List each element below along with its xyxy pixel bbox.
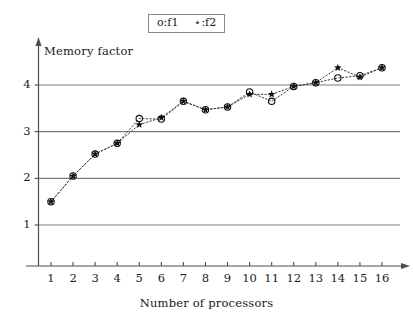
x-tick-label: 8: [195, 273, 215, 285]
x-tick-label: 4: [107, 273, 127, 285]
x-tick-label: 6: [151, 273, 171, 285]
y-tick-label: 2: [13, 172, 31, 184]
series-line-f2: [51, 68, 382, 202]
circle-marker: [268, 98, 274, 104]
x-tick-label: 3: [85, 273, 105, 285]
y-axis-arrow: [36, 37, 42, 46]
y-tick-label: 3: [13, 126, 31, 138]
x-tick-label: 5: [129, 273, 149, 285]
star-marker: [268, 90, 276, 97]
x-tick-label: 14: [328, 273, 348, 285]
x-tick-label: 1: [41, 273, 61, 285]
series-line-f1: [51, 68, 382, 202]
x-tick-label: 16: [372, 273, 392, 285]
chart-figure: o:f1 ⋆:f2 Memory factor Number of proces…: [0, 0, 413, 320]
x-tick-label: 11: [262, 273, 282, 285]
x-tick-label: 12: [284, 273, 304, 285]
x-tick-label: 7: [173, 273, 193, 285]
x-tick-label: 10: [240, 273, 260, 285]
y-tick-label: 4: [13, 79, 31, 91]
x-tick-label: 13: [306, 273, 326, 285]
x-tick-label: 15: [350, 273, 370, 285]
x-axis-arrow: [401, 263, 410, 269]
x-tick-label: 2: [63, 273, 83, 285]
y-tick-label: 1: [13, 219, 31, 231]
x-tick-label: 9: [218, 273, 238, 285]
